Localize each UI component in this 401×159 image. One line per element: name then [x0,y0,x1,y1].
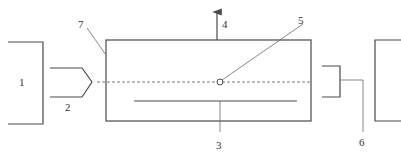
label-7: 7 [78,18,84,30]
component-3-inner-element: 3 [134,101,297,151]
component-7-chamber: 7 [78,18,311,121]
component-5-marker: 5 [217,14,304,85]
component-4-arrow: 4 [217,12,228,40]
label-3: 3 [216,139,222,151]
circle-marker-icon [217,79,223,85]
leader-5 [222,24,303,80]
label-4: 4 [222,18,228,30]
right-block [375,40,401,121]
leader-6 [340,80,363,132]
component-1-left-block: 1 [8,42,43,124]
label-1: 1 [19,76,25,88]
component-2-probe: 2 [50,68,92,113]
leader-7 [87,28,106,55]
label-5: 5 [298,14,304,26]
label-2: 2 [65,101,71,113]
label-6: 6 [359,136,365,148]
component-6-bracket: 6 [322,66,365,148]
schematic-diagram: 1 2 7 3 4 5 6 [0,0,401,159]
